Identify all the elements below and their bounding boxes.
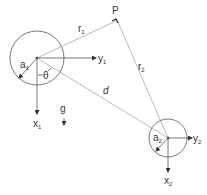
r1-label: r1 [78, 23, 85, 35]
y2-label: y2 [193, 133, 202, 145]
y1-label: y1 [98, 53, 107, 65]
theta-label: θ [43, 70, 49, 81]
a1-label: a1 [20, 59, 30, 71]
r2-label: r2 [138, 61, 145, 73]
x2-label: x2 [164, 175, 173, 187]
d-line [37, 58, 168, 138]
d-label: d [103, 85, 109, 96]
gravity-label: g [60, 103, 66, 114]
point-p-label: P [112, 5, 119, 16]
r2-line [118, 22, 168, 138]
x1-label: x1 [33, 118, 42, 130]
two-body-diagram: P r1 r2 d y1 x1 a1 θ y2 x2 a2 g [0, 0, 207, 195]
r1-line [37, 21, 116, 58]
diagram-canvas: P r1 r2 d y1 x1 a1 θ y2 x2 a2 g [0, 0, 207, 195]
